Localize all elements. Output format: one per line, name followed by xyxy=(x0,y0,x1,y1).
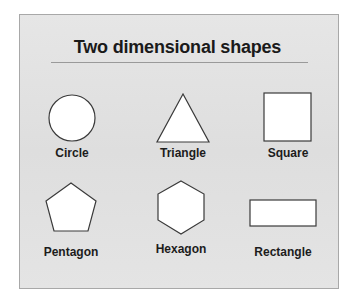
pentagon-shape xyxy=(46,183,96,231)
triangle-shape xyxy=(157,94,209,142)
pentagon-label: Pentagon xyxy=(26,245,116,259)
circle-label: Circle xyxy=(27,146,117,160)
square-shape xyxy=(264,93,311,141)
square-label: Square xyxy=(243,146,333,160)
hexagon-shape xyxy=(158,181,204,234)
hexagon-label: Hexagon xyxy=(136,242,226,256)
triangle-label: Triangle xyxy=(138,146,228,160)
rectangle-label: Rectangle xyxy=(238,245,328,259)
circle-shape xyxy=(49,95,95,141)
rectangle-shape xyxy=(250,200,316,226)
